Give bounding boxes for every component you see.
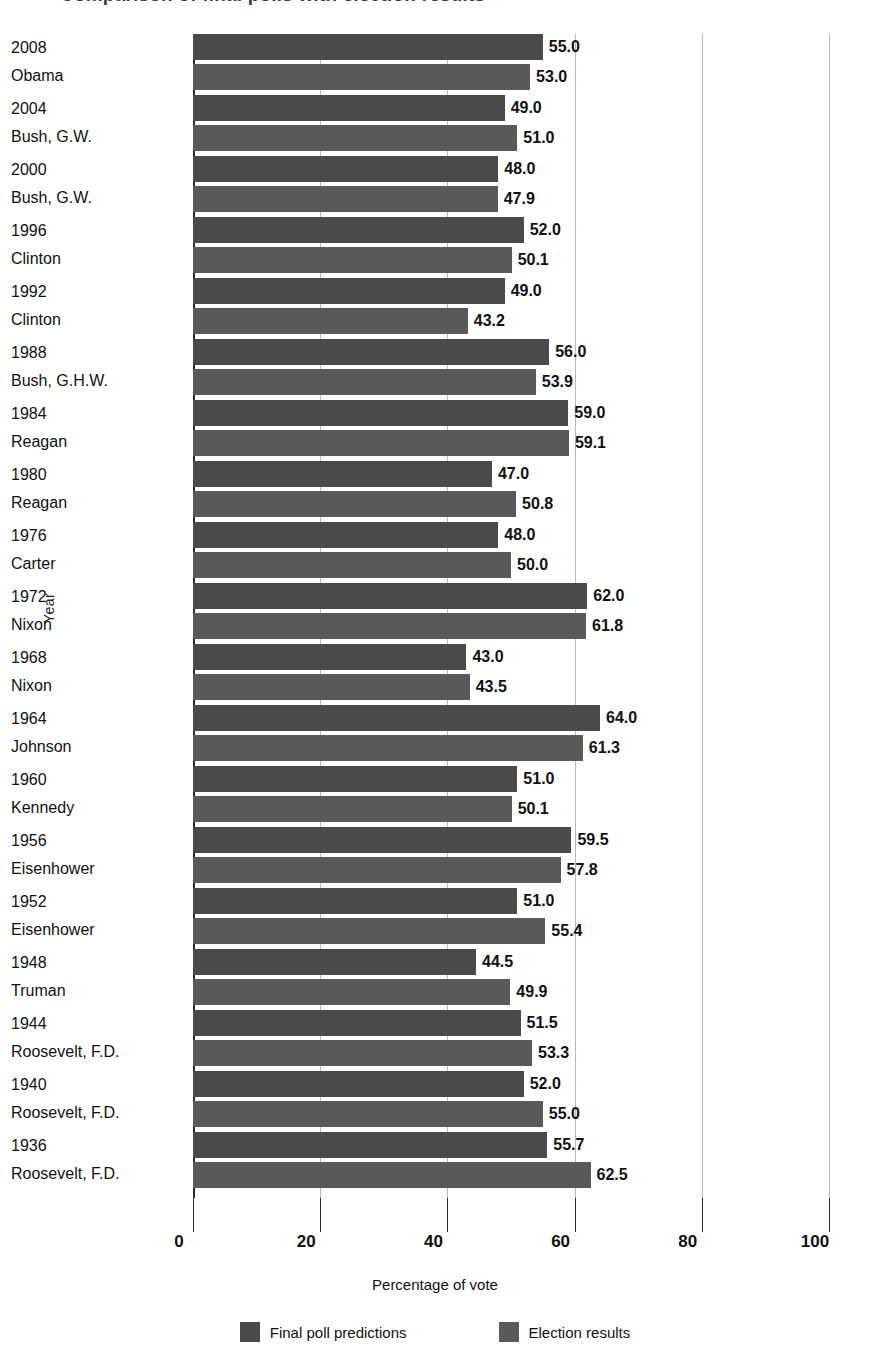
- category-year: 1968: [11, 644, 181, 672]
- chart-legend: Final poll predictionsElection results: [0, 1322, 870, 1342]
- bar-final-poll-prediction[interactable]: 64.0: [193, 705, 600, 731]
- bar-final-poll-prediction[interactable]: 48.0: [193, 522, 498, 548]
- bar-election-result[interactable]: 47.9: [193, 186, 498, 212]
- bar-election-result[interactable]: 43.2: [193, 308, 468, 334]
- poll-vs-election-bar-chart: Year 2008Obama55.053.02004Bush, G.W.49.0…: [0, 0, 870, 1362]
- category-label: 1956Eisenhower: [11, 827, 181, 883]
- bar-value-label: 43.5: [476, 678, 507, 696]
- bar-final-poll-prediction[interactable]: 44.5: [193, 949, 476, 975]
- bar-election-result[interactable]: 59.1: [193, 430, 569, 456]
- x-axis-label: Percentage of vote: [0, 1276, 870, 1293]
- bar-value-label: 48.0: [504, 526, 535, 544]
- bar-election-result[interactable]: 51.0: [193, 125, 517, 151]
- category-year: 1948: [11, 949, 181, 977]
- plot-area: 2008Obama55.053.02004Bush, G.W.49.051.02…: [193, 34, 829, 1198]
- bar-election-result[interactable]: 61.3: [193, 735, 583, 761]
- bar-value-label: 50.1: [518, 800, 549, 818]
- bar-election-result[interactable]: 43.5: [193, 674, 470, 700]
- category-label: 2004Bush, G.W.: [11, 95, 181, 151]
- category-label: 2000Bush, G.W.: [11, 156, 181, 212]
- bar-value-label: 56.0: [555, 343, 586, 361]
- category-label: 1992Clinton: [11, 278, 181, 334]
- bar-value-label: 49.9: [516, 983, 547, 1001]
- category-label: 1996Clinton: [11, 217, 181, 273]
- x-tick-label-80: 80: [678, 1232, 697, 1252]
- bar-election-result[interactable]: 50.1: [193, 247, 512, 273]
- category-year: 1952: [11, 888, 181, 916]
- category-person: Bush, G.W.: [11, 123, 181, 151]
- bar-final-poll-prediction[interactable]: 56.0: [193, 339, 549, 365]
- bar-final-poll-prediction[interactable]: 49.0: [193, 278, 505, 304]
- bar-election-result[interactable]: 50.8: [193, 491, 516, 517]
- bar-value-label: 59.5: [577, 831, 608, 849]
- bar-value-label: 53.0: [536, 68, 567, 86]
- bar-value-label: 50.1: [518, 251, 549, 269]
- x-tick-mark-80: [702, 1198, 703, 1232]
- bar-final-poll-prediction[interactable]: 55.7: [193, 1132, 547, 1158]
- bar-election-result[interactable]: 61.8: [193, 613, 586, 639]
- x-tick-mark-60: [575, 1198, 576, 1232]
- category-year: 1996: [11, 217, 181, 245]
- bar-final-poll-prediction[interactable]: 51.0: [193, 888, 517, 914]
- bar-election-result[interactable]: 50.1: [193, 796, 512, 822]
- bar-final-poll-prediction[interactable]: 49.0: [193, 95, 505, 121]
- category-person: Roosevelt, F.D.: [11, 1160, 181, 1188]
- category-label: 1964Johnson: [11, 705, 181, 761]
- x-tick-mark-100: [829, 1198, 830, 1232]
- category-label: 1976Carter: [11, 522, 181, 578]
- bar-final-poll-prediction[interactable]: 59.0: [193, 400, 568, 426]
- bar-final-poll-prediction[interactable]: 59.5: [193, 827, 571, 853]
- bar-value-label: 61.3: [589, 739, 620, 757]
- bar-final-poll-prediction[interactable]: 48.0: [193, 156, 498, 182]
- category-person: Nixon: [11, 672, 181, 700]
- bar-final-poll-prediction[interactable]: 52.0: [193, 1071, 524, 1097]
- legend-swatch-election-results: [499, 1322, 519, 1342]
- category-label: 1944Roosevelt, F.D.: [11, 1010, 181, 1066]
- category-label: 1980Reagan: [11, 461, 181, 517]
- bar-final-poll-prediction[interactable]: 51.5: [193, 1010, 521, 1036]
- bar-election-result[interactable]: 50.0: [193, 552, 511, 578]
- x-tick-label-60: 60: [551, 1232, 570, 1252]
- bar-election-result[interactable]: 55.0: [193, 1101, 543, 1127]
- bar-final-poll-prediction[interactable]: 62.0: [193, 583, 587, 609]
- category-person: Truman: [11, 977, 181, 1005]
- category-year: 2004: [11, 95, 181, 123]
- category-label: 1952Eisenhower: [11, 888, 181, 944]
- category-label: 2008Obama: [11, 34, 181, 90]
- bar-value-label: 55.7: [553, 1136, 584, 1154]
- bar-election-result[interactable]: 53.9: [193, 369, 536, 395]
- bar-value-label: 48.0: [504, 160, 535, 178]
- bar-value-label: 55.0: [549, 1105, 580, 1123]
- bar-election-result[interactable]: 53.3: [193, 1040, 532, 1066]
- legend-label: Final poll predictions: [270, 1324, 407, 1341]
- bar-value-label: 50.0: [517, 556, 548, 574]
- bar-value-label: 57.8: [567, 861, 598, 879]
- category-year: 1972: [11, 583, 181, 611]
- bar-value-label: 61.8: [592, 617, 623, 635]
- category-person: Reagan: [11, 428, 181, 456]
- bar-final-poll-prediction[interactable]: 43.0: [193, 644, 466, 670]
- category-year: 1944: [11, 1010, 181, 1038]
- bar-value-label: 49.0: [511, 282, 542, 300]
- bar-value-label: 52.0: [530, 221, 561, 239]
- bar-value-label: 59.0: [574, 404, 605, 422]
- bar-final-poll-prediction[interactable]: 52.0: [193, 217, 524, 243]
- bar-election-result[interactable]: 62.5: [193, 1162, 591, 1188]
- bar-election-result[interactable]: 55.4: [193, 918, 545, 944]
- legend-item[interactable]: Election results: [499, 1322, 631, 1342]
- bar-final-poll-prediction[interactable]: 51.0: [193, 766, 517, 792]
- category-label: 1984Reagan: [11, 400, 181, 456]
- bar-election-result[interactable]: 53.0: [193, 64, 530, 90]
- bar-value-label: 51.0: [523, 892, 554, 910]
- legend-item[interactable]: Final poll predictions: [240, 1322, 407, 1342]
- bar-election-result[interactable]: 49.9: [193, 979, 510, 1005]
- x-tick-label-40: 40: [424, 1232, 443, 1252]
- bar-value-label: 64.0: [606, 709, 637, 727]
- category-year: 1992: [11, 278, 181, 306]
- bar-election-result[interactable]: 57.8: [193, 857, 561, 883]
- category-label: 1940Roosevelt, F.D.: [11, 1071, 181, 1127]
- bar-final-poll-prediction[interactable]: 47.0: [193, 461, 492, 487]
- bar-final-poll-prediction[interactable]: 55.0: [193, 34, 543, 60]
- bar-value-label: 51.5: [527, 1014, 558, 1032]
- category-year: 2008: [11, 34, 181, 62]
